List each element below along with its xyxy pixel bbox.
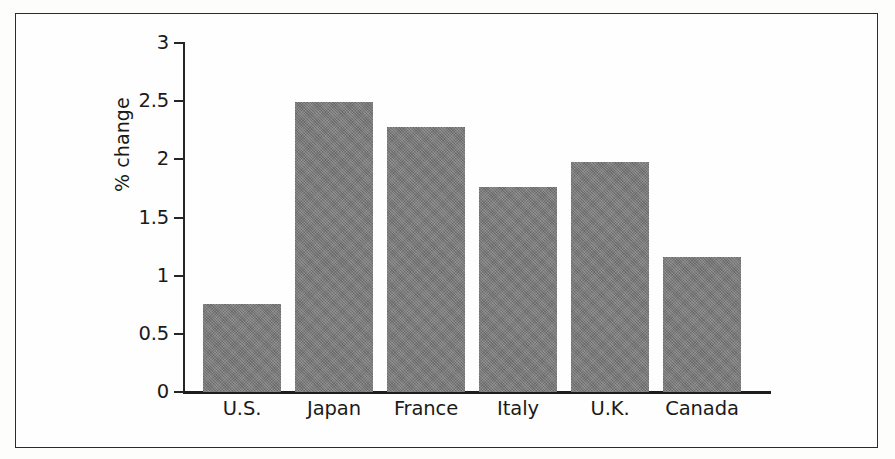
bar-france[interactable] [387, 127, 465, 392]
x-category-label-japan: Japan [295, 398, 373, 420]
x-category-label-france: France [385, 398, 467, 420]
x-category-label-uk: U.K. [571, 398, 649, 420]
bar-us[interactable] [203, 304, 281, 392]
bar-canada[interactable] [663, 257, 741, 392]
x-category-label-italy: Italy [479, 398, 557, 420]
bar-uk[interactable] [571, 162, 649, 392]
bar-italy[interactable] [479, 187, 557, 392]
x-category-label-us: U.S. [203, 398, 281, 420]
x-category-label-canada: Canada [659, 398, 745, 420]
bars-layer [0, 0, 895, 392]
chart-plot-area: 0 0.5 1 1.5 2 2.5 3 % change [0, 0, 895, 459]
bar-japan[interactable] [295, 102, 373, 392]
chart-figure: 0 0.5 1 1.5 2 2.5 3 % change [0, 0, 895, 459]
